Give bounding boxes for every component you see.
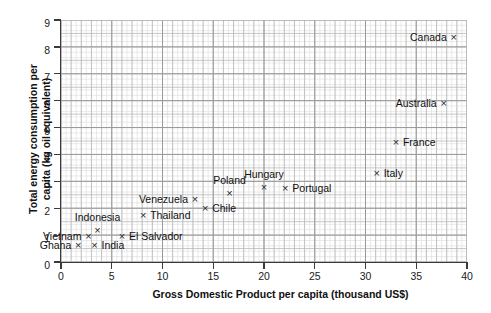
y-tick xyxy=(54,46,60,47)
x-tick-label: 40 xyxy=(452,270,482,282)
data-point-marker: × xyxy=(261,181,267,192)
x-tick xyxy=(416,263,417,269)
x-axis-title: Gross Domestic Product per capita (thous… xyxy=(0,288,491,300)
x-tick xyxy=(466,263,467,269)
y-tick xyxy=(54,127,60,128)
data-point-label: Hungary xyxy=(244,169,284,180)
x-axis-title-text: Gross Domestic Product per capita (thous… xyxy=(82,288,408,300)
data-point-label: Australia xyxy=(396,98,437,109)
data-point-marker: × xyxy=(85,231,91,242)
y-axis-line xyxy=(60,19,61,263)
plot-area: ×Ghana×Vietnam×India×Indonesia×El Salvad… xyxy=(61,20,467,262)
y-tick xyxy=(54,235,60,236)
data-point-label: Italy xyxy=(384,168,403,179)
x-tick-label: 25 xyxy=(300,270,330,282)
data-point-marker: × xyxy=(202,203,208,214)
x-tick xyxy=(365,263,366,269)
y-tick xyxy=(54,19,60,20)
data-point-marker: × xyxy=(373,168,379,179)
x-tick-label: 10 xyxy=(148,270,178,282)
data-point-marker: × xyxy=(94,224,100,235)
y-tick xyxy=(54,100,60,101)
data-point-marker: × xyxy=(282,183,288,194)
data-points-layer: ×Ghana×Vietnam×India×Indonesia×El Salvad… xyxy=(61,20,467,262)
x-tick xyxy=(162,263,163,269)
y-axis-title-line1: Total energy consumption per xyxy=(27,64,39,214)
data-point-marker: × xyxy=(192,193,198,204)
data-point-label: France xyxy=(403,137,436,148)
y-tick xyxy=(54,73,60,74)
x-tick-label: 15 xyxy=(198,270,228,282)
x-tick-label: 20 xyxy=(249,270,279,282)
x-tick xyxy=(263,263,264,269)
x-tick-label: 5 xyxy=(97,270,127,282)
y-tick xyxy=(54,181,60,182)
y-tick xyxy=(54,154,60,155)
scatter-chart: ×Ghana×Vietnam×India×Indonesia×El Salvad… xyxy=(0,0,491,313)
data-point-marker: × xyxy=(440,98,446,109)
data-point-label: Canada xyxy=(410,32,447,43)
x-tick xyxy=(213,263,214,269)
data-point-label: El Salvador xyxy=(129,231,183,242)
data-point-marker: × xyxy=(393,137,399,148)
y-tick xyxy=(54,261,60,262)
y-axis-title-line2: capita (kg oil equivalent) xyxy=(40,78,52,201)
data-point-marker: × xyxy=(91,239,97,250)
x-tick-label: 30 xyxy=(351,270,381,282)
y-axis-title: Total energy consumption per capita (kg … xyxy=(27,19,53,259)
data-point-marker: × xyxy=(140,209,146,220)
data-point-label: Thailand xyxy=(150,209,190,220)
data-point-marker: × xyxy=(226,188,232,199)
data-point-marker: × xyxy=(451,32,457,43)
x-tick xyxy=(111,263,112,269)
x-tick xyxy=(60,263,61,269)
data-point-label: Portugal xyxy=(292,183,331,194)
data-point-label: Chile xyxy=(212,203,236,214)
x-tick xyxy=(314,263,315,269)
data-point-label: Indonesia xyxy=(75,212,121,223)
x-tick-label: 0 xyxy=(46,270,76,282)
data-point-label: India xyxy=(101,239,124,250)
x-tick-label: 35 xyxy=(401,270,431,282)
y-tick xyxy=(54,208,60,209)
data-point-label: Venezuela xyxy=(139,193,188,204)
data-point-label: Poland xyxy=(213,175,246,186)
